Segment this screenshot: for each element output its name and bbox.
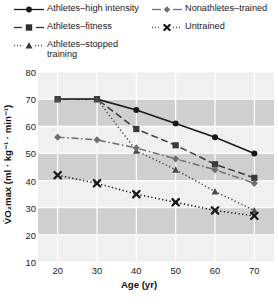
- x-tick-label: 50: [170, 265, 180, 276]
- y-tick-label: 80: [16, 67, 36, 78]
- legend-item-nonathletes-trained: Nonathletes–trained: [152, 3, 267, 15]
- legend-item-athletes-fitness: Athletes–fitness: [14, 21, 112, 33]
- legend-item-untrained: Untrained: [152, 21, 225, 33]
- legend-label-line1: Athletes–stopped: [47, 39, 118, 49]
- plot-canvas: [38, 72, 274, 262]
- legend-label: Athletes–stopped training: [47, 39, 118, 60]
- legend-label: Nonathletes–trained: [185, 3, 267, 13]
- x-tick-label: 70: [249, 265, 259, 276]
- chart-legend: Athletes–high intensity Nonathletes–trai…: [0, 0, 278, 66]
- legend-label: Athletes–high intensity: [47, 3, 139, 13]
- legend-key-diamond-dashdot-icon: [152, 4, 182, 15]
- legend-key-circle-solid-icon: [14, 4, 44, 15]
- legend-key-x-dotted-icon: [152, 22, 182, 33]
- legend-item-athletes-stopped-training: Athletes–stopped training: [14, 39, 118, 60]
- y-tick-label: 60: [16, 121, 36, 132]
- x-tick-label: 40: [131, 265, 141, 276]
- y-tick-label: 20: [16, 229, 36, 240]
- x-tick-label: 60: [210, 265, 220, 276]
- x-tick-label: 20: [52, 265, 62, 276]
- vo2max-age-chart: Athletes–high intensity Nonathletes–trai…: [0, 0, 278, 304]
- legend-label: Athletes–fitness: [47, 21, 112, 31]
- y-tick-label: 50: [16, 148, 36, 159]
- legend-item-athletes-high-intensity: Athletes–high intensity: [14, 3, 139, 15]
- x-tick-label: 30: [92, 265, 102, 276]
- legend-key-triangle-dotted-icon: [14, 40, 44, 51]
- y-tick-label: 30: [16, 202, 36, 213]
- y-tick-label: 40: [16, 175, 36, 186]
- x-axis-ticks: 203040506070: [0, 265, 278, 279]
- x-axis-label: Age (yr): [0, 279, 278, 290]
- plot-area: V̇O₂max (ml · kg⁻¹ · min⁻¹) 807060504030…: [0, 66, 278, 304]
- legend-label-line2: training: [47, 49, 118, 59]
- legend-label: Untrained: [185, 21, 225, 31]
- y-tick-label: 70: [16, 94, 36, 105]
- legend-key-square-dashed-icon: [14, 22, 44, 33]
